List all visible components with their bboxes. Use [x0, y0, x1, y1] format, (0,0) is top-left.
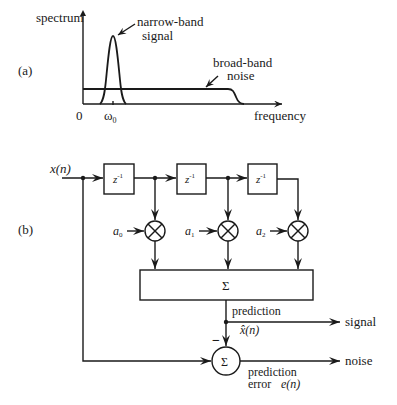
origin-label: 0	[76, 108, 83, 123]
prediction-label: prediction	[232, 304, 281, 318]
panel-b: (b) x(n) z-1 z-1 z-1	[18, 161, 376, 391]
summation-symbol: Σ	[222, 278, 230, 293]
x-axis-label: frequency	[254, 108, 306, 123]
coefficient-a1: a1	[185, 224, 195, 239]
signal-label-line1: narrow-band	[137, 14, 204, 29]
coefficient-a0: a0	[113, 224, 123, 239]
svg-text:z-1: z-1	[255, 172, 267, 185]
diagram-canvas: spectrum (a) 0 ω0 frequency narrow-band …	[0, 0, 397, 405]
delay-block-1: z-1	[104, 164, 134, 194]
panel-b-label: (b)	[18, 222, 33, 237]
noise-pointer-arrow	[206, 76, 218, 87]
error-variable: e(n)	[281, 377, 300, 391]
panel-a: spectrum (a) 0 ω0 frequency narrow-band …	[18, 10, 306, 125]
svg-text:Σ: Σ	[221, 355, 228, 369]
omega-label: ω0	[104, 108, 117, 125]
y-axis-label: spectrum	[36, 10, 84, 25]
signal-spectrum-curve	[100, 36, 126, 104]
coefficient-a2: a2	[256, 224, 266, 239]
error-summation-node: Σ	[212, 347, 240, 375]
noise-output-label: noise	[345, 353, 373, 368]
summation-block: Σ	[140, 270, 313, 300]
signal-label-line2: signal	[142, 28, 173, 43]
noise-spectrum-curve	[83, 89, 244, 104]
panel-a-label: (a)	[18, 63, 32, 78]
svg-text:z-1: z-1	[112, 172, 124, 185]
prediction-variable: x̂(n)	[239, 323, 259, 337]
input-label: x(n)	[49, 161, 71, 176]
signal-pointer-arrow	[118, 24, 135, 35]
noise-label-line2: noise	[227, 68, 255, 83]
delay-block-3: z-1	[248, 164, 277, 194]
error-label-line2: error	[248, 377, 271, 391]
tap-line-3	[277, 179, 298, 220]
multiplier-2	[288, 221, 308, 241]
delay-block-2: z-1	[177, 164, 206, 194]
multiplier-1	[218, 221, 238, 241]
signal-output-label: signal	[345, 314, 376, 329]
svg-text:z-1: z-1	[184, 172, 196, 185]
multiplier-0	[145, 221, 165, 241]
minus-sign: −	[212, 333, 220, 348]
